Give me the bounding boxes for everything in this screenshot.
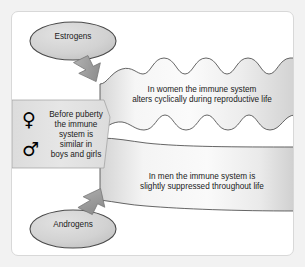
diagram-frame: Estrogens Androgens In women the immune … xyxy=(11,11,294,256)
mars-symbol-icon: ♂ xyxy=(22,140,39,159)
androgens-ellipse[interactable] xyxy=(30,210,116,248)
men-band xyxy=(100,138,294,211)
women-band xyxy=(100,58,294,130)
estrogens-ellipse[interactable] xyxy=(30,22,116,60)
diagram-stage: Estrogens Androgens In women the immune … xyxy=(0,0,305,267)
diagram-artwork xyxy=(12,12,294,256)
venus-symbol-icon: ♀ xyxy=(22,110,36,129)
